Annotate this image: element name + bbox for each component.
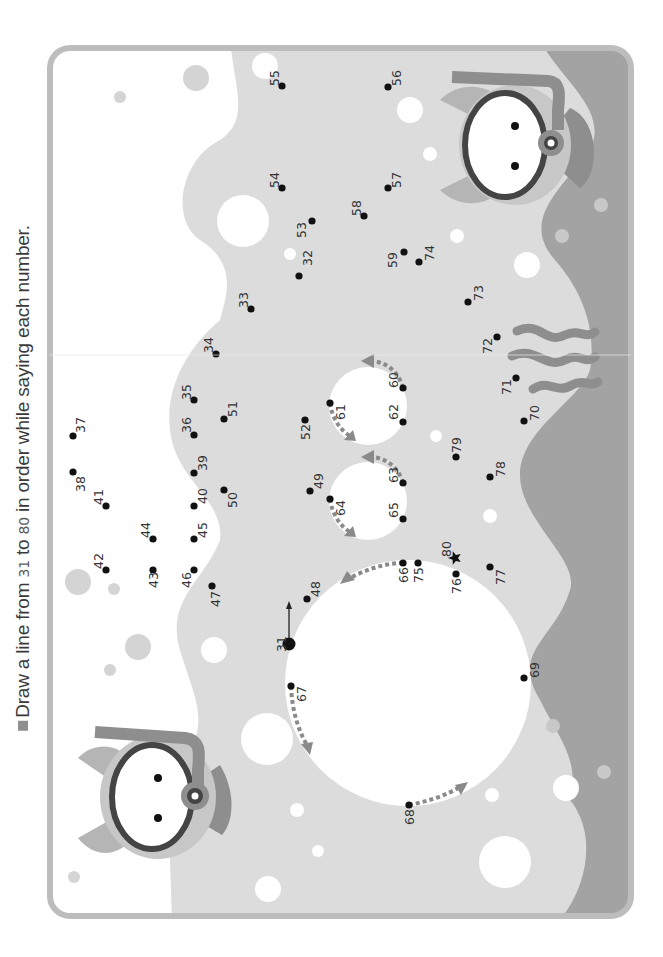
dot-label: 48 bbox=[308, 581, 323, 597]
dot-label: 46 bbox=[179, 572, 194, 588]
dot-icon bbox=[295, 272, 302, 279]
dot-label: 67 bbox=[294, 686, 309, 702]
dot-label: 38 bbox=[73, 476, 88, 492]
dot-label: 47 bbox=[208, 591, 223, 607]
dot-icon bbox=[400, 248, 407, 255]
dot-icon bbox=[399, 559, 406, 566]
dot-label: 36 bbox=[179, 417, 194, 433]
dot-label: 50 bbox=[225, 492, 240, 508]
dot-label: 43 bbox=[146, 572, 161, 588]
dot-label: 69 bbox=[527, 662, 542, 678]
dot-label: 54 bbox=[267, 172, 282, 188]
dot-label: 61 bbox=[333, 404, 348, 420]
dot-label: 34 bbox=[201, 337, 216, 353]
dot-icon bbox=[301, 416, 308, 423]
dot-label: 59 bbox=[385, 252, 400, 268]
dot-31[interactable]: 31 bbox=[274, 636, 296, 652]
dot-label: 62 bbox=[386, 404, 401, 420]
dot-label: 76 bbox=[449, 578, 464, 594]
dot-icon bbox=[452, 453, 459, 460]
dot-label: 65 bbox=[386, 502, 401, 518]
dot-label: 68 bbox=[402, 809, 417, 825]
dot-icon bbox=[405, 801, 412, 808]
dot-label: 40 bbox=[195, 488, 210, 504]
dot-label: 56 bbox=[389, 70, 404, 86]
dot-label: 74 bbox=[422, 245, 437, 261]
dot-label: 71 bbox=[499, 379, 514, 395]
dot-label: 42 bbox=[91, 553, 106, 569]
dot-label: 72 bbox=[480, 338, 495, 354]
dot-label: 49 bbox=[311, 473, 326, 489]
dot-label: 66 bbox=[396, 567, 411, 583]
dot-label: 53 bbox=[294, 222, 309, 238]
dot-label: 60 bbox=[386, 372, 401, 388]
dot-label: 52 bbox=[298, 424, 313, 440]
dot-label: 35 bbox=[179, 384, 194, 400]
dot-label: 51 bbox=[225, 401, 240, 417]
dot-label: 55 bbox=[267, 70, 282, 86]
dot-label: 58 bbox=[349, 200, 364, 216]
dot-label: 79 bbox=[449, 437, 464, 453]
dot-label: 63 bbox=[386, 467, 401, 483]
dot-label: 33 bbox=[236, 292, 251, 308]
dot-label: 73 bbox=[471, 285, 486, 301]
dot-label: 32 bbox=[300, 250, 315, 266]
dot-icon bbox=[208, 582, 215, 589]
dot-label: 41 bbox=[91, 489, 106, 505]
dot-icon bbox=[308, 217, 315, 224]
dot-label: 78 bbox=[493, 461, 508, 477]
dot-label: 75 bbox=[411, 567, 426, 583]
dot-label: 80 bbox=[439, 541, 454, 557]
dot-label: 57 bbox=[389, 172, 404, 188]
dot-label: 77 bbox=[493, 569, 508, 585]
dot-label: 70 bbox=[527, 405, 542, 421]
dot-label: 45 bbox=[195, 522, 210, 538]
dot-label: 39 bbox=[195, 455, 210, 471]
dot-label: 37 bbox=[73, 417, 88, 433]
dot-to-dot-sheet: 3132333435363738394041424344454647484950… bbox=[0, 0, 663, 957]
scene: 3132333435363738394041424344454647484950… bbox=[50, 40, 640, 920]
dot-icon bbox=[414, 559, 421, 566]
dot-label: 31 bbox=[274, 636, 289, 652]
dot-icon bbox=[69, 468, 76, 475]
dot-icon bbox=[452, 570, 459, 577]
dot-label: 44 bbox=[138, 522, 153, 538]
dot-label: 64 bbox=[333, 500, 348, 516]
